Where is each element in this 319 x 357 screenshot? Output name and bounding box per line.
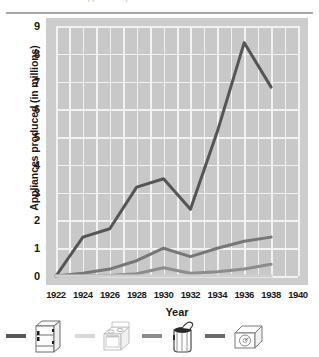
x-axis-tick-1922: 1922 [41, 289, 71, 300]
plot-inner [56, 26, 298, 276]
figure: Appliances produced in the United States… [0, 0, 319, 357]
x-axis-tick-1924: 1924 [68, 289, 98, 300]
y-axis-tick-8: 8 [22, 49, 40, 60]
y-axis-tick-1: 1 [22, 243, 40, 254]
washing-machine-icon [166, 317, 200, 355]
chart: Appliances produced (in millions) 012345… [0, 18, 319, 306]
x-axis-tick-1940: 1940 [283, 289, 313, 300]
y-axis-tick-9: 9 [22, 21, 40, 32]
legend-item-refrigerator[interactable] [6, 314, 66, 357]
legend-item-radio[interactable] [205, 314, 269, 357]
y-axis-tick-6: 6 [22, 104, 40, 115]
x-axis-tick-1928: 1928 [122, 289, 152, 300]
header-divider [6, 12, 313, 14]
series-line-radio [56, 43, 271, 276]
legend-swatch-washing-machine [142, 334, 162, 338]
legend-item-stove[interactable] [75, 314, 135, 357]
x-axis-tick-1926: 1926 [95, 289, 125, 300]
x-axis-tick-1936: 1936 [229, 289, 259, 300]
y-axis-tick-3: 3 [22, 188, 40, 199]
plot-panel [46, 18, 308, 285]
stove-icon [99, 318, 135, 354]
top-caption-text: Appliances produced in the United States [0, 0, 319, 2]
x-axis-tick-1938: 1938 [256, 289, 286, 300]
x-axis-tick-1932: 1932 [175, 289, 205, 300]
refrigerator-icon [30, 317, 66, 355]
y-axis-tick-7: 7 [22, 77, 40, 88]
legend-swatch-radio [205, 334, 225, 338]
radio-icon [229, 319, 269, 353]
y-axis-tick-5: 5 [22, 132, 40, 143]
legend-swatch-refrigerator [6, 334, 26, 338]
legend-swatch-stove [75, 334, 95, 338]
y-axis-tick-4: 4 [22, 160, 40, 171]
x-axis-tick-1930: 1930 [149, 289, 179, 300]
gridline-v [298, 26, 300, 276]
series-line-refrigerator [56, 264, 271, 276]
y-axis-tick-2: 2 [22, 215, 40, 226]
legend-item-washing-machine[interactable] [142, 314, 200, 357]
series-lines [56, 26, 298, 276]
chart-legend [0, 314, 319, 357]
x-axis-tick-1934: 1934 [202, 289, 232, 300]
y-axis-tick-0: 0 [22, 271, 40, 282]
